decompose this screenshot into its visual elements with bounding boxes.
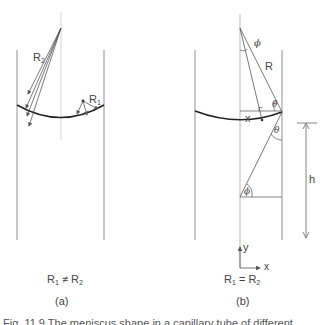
label-axis-x: x <box>264 261 269 272</box>
panel-b-diagram <box>195 14 317 268</box>
label-r: r <box>258 104 262 113</box>
label-theta-top: θ <box>272 99 277 109</box>
cond-right-sub: 2 <box>256 279 260 286</box>
panel-a-diagram <box>17 12 104 240</box>
cond-left: R <box>47 273 55 285</box>
figure-caption: Fig. 11.9 The meniscus shape in a capill… <box>0 316 327 325</box>
phi-arc-top <box>240 49 247 51</box>
label-R: R <box>265 60 273 72</box>
cond-right: R <box>71 273 79 285</box>
cond-op: = <box>236 273 249 285</box>
label-R2: R2 <box>33 51 45 64</box>
cond-right-sub: 2 <box>79 279 83 286</box>
label-sub: 2 <box>41 57 45 64</box>
cond-left: R <box>224 273 232 285</box>
label-R1: R1 <box>89 93 101 106</box>
meniscus-curve <box>195 111 282 120</box>
condition-b: R1 = R2 <box>224 273 260 286</box>
label-h: h <box>309 173 315 185</box>
label-text: R <box>89 93 97 105</box>
label-phi-top: ϕ <box>254 37 261 48</box>
label-x: x <box>245 112 251 124</box>
meniscus-curve <box>17 105 104 118</box>
panel-a-label: (a) <box>55 295 68 307</box>
label-sub: 1 <box>97 99 101 106</box>
condition-a: R1 ≠ R2 <box>47 273 83 286</box>
label-text: R <box>33 51 41 63</box>
label-axis-y: y <box>243 241 249 253</box>
panel-b-label: (b) <box>236 295 249 307</box>
label-theta-lower: θ <box>274 125 279 135</box>
cond-op: ≠ <box>59 273 71 285</box>
label-phi-bottom: ϕ <box>244 186 250 196</box>
